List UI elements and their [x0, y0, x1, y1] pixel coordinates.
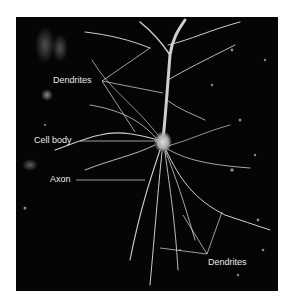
- label-dendrites-top: Dendrites: [53, 75, 92, 85]
- neuron-drawing: [16, 17, 278, 291]
- label-dendrites-bottom: Dendrites: [208, 257, 247, 267]
- label-axon: Axon: [50, 174, 71, 184]
- label-cell-body: Cell body: [34, 135, 72, 145]
- leader-lines: [76, 48, 222, 254]
- neuron-micrograph: [16, 17, 278, 291]
